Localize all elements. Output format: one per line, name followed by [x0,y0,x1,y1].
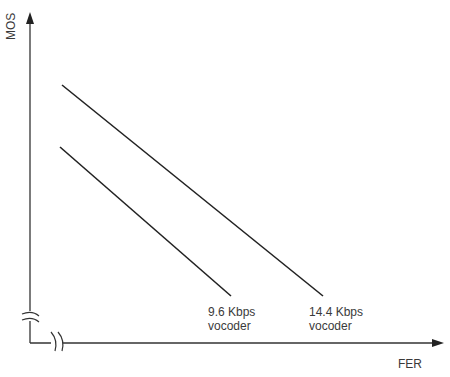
series-label-line1: 9.6 Kbps [208,305,255,319]
series-label-line1: 14.4 Kbps [309,305,363,319]
series-line-14-4kbps [62,85,323,296]
y-axis-break-icon [22,311,39,322]
series-label-9-6kbps: 9.6 Kbps vocoder [208,305,255,333]
y-axis-label: MOS [4,13,18,40]
x-axis-break-icon [51,332,63,351]
series-label-line2: vocoder [309,319,363,333]
series-label-line2: vocoder [208,319,255,333]
x-axis-label: FER [398,357,422,371]
x-axis-arrow-icon [432,339,444,347]
y-axis-arrow-icon [26,12,34,24]
series-line-9-6kbps [60,147,231,296]
series-label-14-4kbps: 14.4 Kbps vocoder [309,305,363,333]
